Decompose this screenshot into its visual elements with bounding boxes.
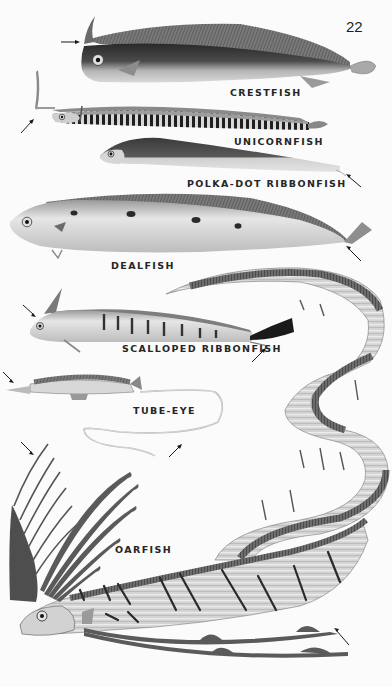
label-tube-eye: TUBE-EYE (133, 405, 196, 416)
label-dealfish: DEALFISH (111, 260, 175, 271)
page-number: 22 (346, 18, 363, 35)
tube-eye-illustration (6, 376, 222, 456)
dealfish-illustration (10, 194, 372, 258)
arrow-icon (346, 246, 361, 261)
arrow-icon (21, 442, 34, 455)
arrow-icon (61, 40, 80, 44)
arrow-icon (21, 119, 34, 133)
label-polka-dot-ribbonfish: POLKA-DOT RIBBONFISH (187, 178, 347, 189)
label-scalloped-ribbonfish: SCALLOPED RIBBONFISH (122, 343, 282, 354)
label-crestfish: CRESTFISH (230, 87, 302, 98)
crestfish-illustration (81, 16, 376, 88)
field-guide-page: 22 CRESTFISH UNICORNFISH POLKA-DOT RIBBO… (0, 0, 392, 687)
label-oarfish: OARFISH (115, 544, 172, 555)
arrow-icon (334, 628, 349, 645)
arrow-icon (3, 372, 14, 383)
arrow-icon (169, 444, 182, 457)
arrow-icon (23, 305, 36, 317)
label-unicornfish: UNICORNFISH (234, 136, 324, 147)
arrow-icon (346, 174, 361, 187)
